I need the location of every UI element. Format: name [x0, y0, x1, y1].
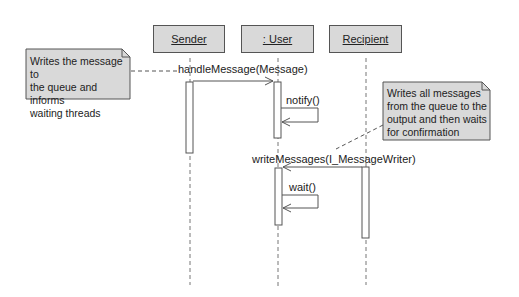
arrow-notify-self-call	[281, 108, 318, 126]
note-2-line-1: Writes all messages	[387, 87, 487, 100]
object-sender-label: Sender	[171, 33, 206, 45]
note-2-line-4: for confirmation	[387, 126, 487, 139]
note-1: Writes the message to the queue and info…	[30, 55, 128, 120]
arrow-wait-self-call	[282, 195, 318, 212]
object-user: : User	[241, 25, 314, 53]
object-recipient-label: Recipient	[343, 33, 389, 45]
note-connector-2	[336, 125, 383, 149]
note-2: Writes all messages from the queue to th…	[387, 87, 487, 139]
note-2-line-2: from the queue to the	[387, 100, 487, 113]
note-2-line-3: output and then waits	[387, 113, 487, 126]
note-1-line-1: Writes the message to	[30, 55, 128, 81]
message-label-write-messages: writeMessages(I_MessageWriter)	[252, 153, 416, 165]
object-recipient: Recipient	[329, 25, 402, 53]
activation-recipient	[362, 167, 369, 238]
activation-sender	[186, 82, 193, 153]
object-sender: Sender	[153, 25, 225, 53]
message-label-handle-message: handleMessage(Message)	[178, 63, 308, 75]
object-user-label: : User	[263, 33, 292, 45]
arrow-handle-message	[193, 77, 273, 85]
note-1-line-2: the queue and informs	[30, 81, 128, 107]
message-label-wait: wait()	[289, 181, 316, 193]
activation-user-1	[274, 82, 281, 138]
message-label-notify: notify()	[286, 94, 320, 106]
note-1-line-3: waiting threads	[30, 107, 128, 120]
activation-user-2	[275, 168, 282, 225]
